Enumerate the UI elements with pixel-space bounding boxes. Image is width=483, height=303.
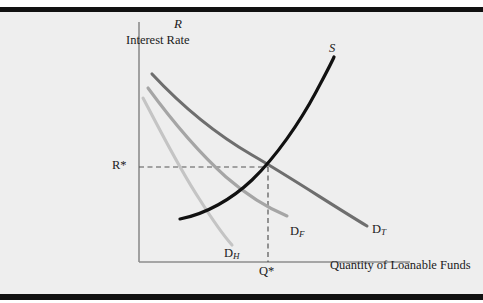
curve-label-supply: S [329, 41, 335, 55]
curve-label-demand-foreign-letter: D [290, 224, 299, 238]
curve-label-demand-foreign: DF [290, 224, 305, 239]
equilibrium-quantity-symbol: Q [259, 264, 268, 278]
curve-supply [180, 57, 334, 219]
curve-demand-foreign [148, 88, 287, 216]
curve-label-demand-total-subscript: T [381, 227, 386, 237]
curve-label-demand-home-letter: D [224, 246, 233, 260]
equilibrium-rate-label: R* [112, 158, 127, 172]
curve-label-demand-foreign-subscript: F [299, 229, 305, 239]
y-axis-symbol: R [174, 17, 182, 32]
x-axis-title: Quantity of Loanable Funds [330, 258, 450, 272]
equilibrium-quantity-star: * [268, 264, 274, 278]
equilibrium-quantity-label: Q* [259, 264, 274, 278]
equilibrium-rate-star: * [120, 158, 126, 172]
figure-loanable-funds-market: R Interest Rate Quantity of Loanable Fun… [0, 0, 483, 303]
curve-label-demand-home-subscript: H [233, 251, 240, 261]
curve-label-demand-total-letter: D [372, 222, 381, 236]
curve-label-demand-home: DH [224, 246, 240, 261]
curve-label-demand-total: DT [372, 222, 386, 237]
y-axis-title: Interest Rate [126, 33, 182, 47]
